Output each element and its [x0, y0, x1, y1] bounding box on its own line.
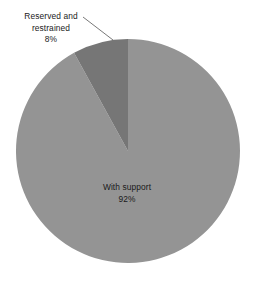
slice-label-reserved-and-restrained: Reserved and restrained 8% [5, 11, 97, 46]
inner-label-line-1: With support [77, 182, 177, 194]
pie-chart: Reserved and restrained 8% With support … [0, 0, 253, 283]
inner-label-percent: 92% [77, 194, 177, 206]
slice-label-with-support: With support 92% [77, 182, 177, 205]
callout-label-line-1: Reserved and [5, 11, 97, 23]
callout-label-line-2: restrained [5, 23, 97, 35]
callout-label-percent: 8% [5, 34, 97, 46]
